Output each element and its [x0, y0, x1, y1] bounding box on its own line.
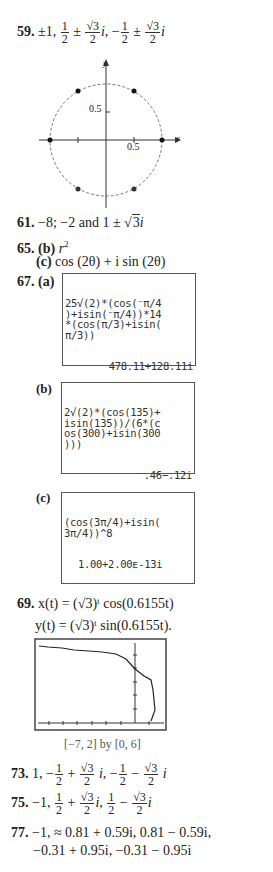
problem-67-c-label: (c) [36, 490, 50, 506]
x-tick-label: 0.5 [127, 141, 140, 152]
problem-65-c: (c) cos (2θ) + i sin (2θ) [36, 254, 165, 270]
problem-number: 59. [17, 24, 35, 39]
problem-69-y: y(t) = (√3)ᵗ sin(0.6155t). [35, 618, 172, 634]
unit-circle-graph [35, 58, 185, 213]
graph-window-caption: [−7, 2] by [0, 6] [64, 737, 141, 752]
parametric-graph [34, 638, 167, 731]
problem-number: 73. [11, 766, 29, 781]
fraction: √32 [85, 20, 100, 45]
problem-61: 61. −8; −2 and 1 ± √3i [17, 215, 144, 231]
problem-number: 75. [11, 795, 29, 810]
fraction: 12 [61, 20, 69, 45]
problem-number: 69. [17, 596, 35, 611]
problem-67-b-label: (b) [36, 381, 52, 397]
problem-number: 61. [17, 215, 35, 230]
problem-77-line1: 77. −1, ≈ 0.81 + 0.59i, 0.81 − 0.59i, [11, 825, 211, 841]
problem-number: 65. [17, 241, 35, 256]
problem-number: 77. [11, 825, 29, 840]
y-axis-label: y [103, 58, 107, 68]
problem-77-line2: −0.31 + 0.95i, −0.31 − 0.95i [33, 843, 191, 859]
calculator-screen-b: 2√(2)*(cos(135)+ isin(135))/(6*(c os(300… [61, 382, 195, 474]
calculator-screen-c: (cos(3π/4)+isin( 3π/4))^8 1.00+2.00ᴇ-13i [61, 492, 195, 584]
problem-73: 73. 1, −12 + √32 i, −12 − √32 i [11, 762, 167, 787]
problem-59: 59. ±1, 12 ± √32i, −12 ± √32i [17, 20, 165, 45]
x-axis-label: x [176, 133, 180, 143]
calculator-screen-a: 25√(2)*(cos(⁻π/4 )+isin(⁻π/4))*14 *(cos(… [62, 273, 196, 366]
problem-67-a: 67. (a) [17, 274, 54, 290]
problem-75: 75. −1, 12 + √32i, 12 − √32i [11, 791, 152, 816]
problem-number: 67. [17, 274, 35, 289]
y-tick-label: 0.5 [89, 103, 102, 114]
fraction: √32 [145, 20, 160, 45]
fraction: 12 [121, 20, 129, 45]
answer-text: ±1, 12 ± √32i, −12 ± √32i [38, 24, 165, 39]
problem-69-x: 69. x(t) = (√3)ᵗ cos(0.6155t) [17, 596, 174, 612]
